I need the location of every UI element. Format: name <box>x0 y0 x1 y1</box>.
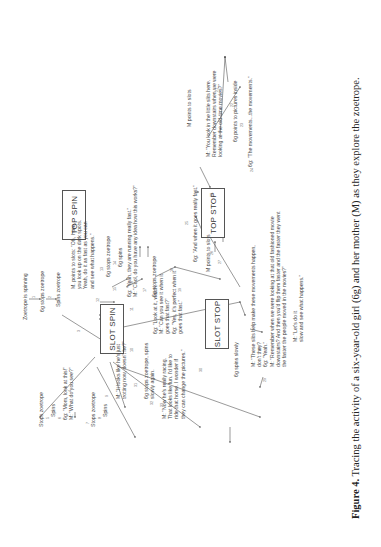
node-lets-do-it: M: "Let's do it slow and see what happen… <box>292 275 304 342</box>
arrow-number: 13 <box>100 267 104 271</box>
arrow-number: 30 <box>199 368 203 372</box>
node-points-pictures: 6g points to pictures inside <box>232 81 238 142</box>
arrow-number: 12 <box>96 298 100 302</box>
arrow-number: 24 <box>250 168 254 172</box>
arrow-number: 16 <box>130 281 134 285</box>
node-spins-14: 6g spins <box>117 248 123 267</box>
arrow-number: 2 <box>48 296 52 298</box>
node-spins-slowly: 6g spins slowly <box>233 342 239 377</box>
arrow-number: 28 <box>258 347 262 351</box>
caption-text: Tracing the activity of a six-year-old g… <box>350 77 361 479</box>
arrow-number: 26 <box>210 251 214 255</box>
node-spins-left: Spins <box>50 404 56 417</box>
node-mom-look: 6g: "Mom, look at this!" M: "What do you… <box>62 367 74 420</box>
arrow-number: 27 <box>218 260 222 264</box>
arrow-number: 20 <box>210 193 214 197</box>
node-stops-zoetrope-mid: Stops zoetrope <box>90 392 96 427</box>
arrow-number: 1 <box>32 296 36 298</box>
node-stops-zoetrope-left: Stops zoetrope <box>38 392 44 427</box>
slot-stop-box: SLOT STOP <box>205 299 229 349</box>
arrow-number: 32 <box>150 401 154 405</box>
node-spins-mid: Spins <box>102 404 108 417</box>
node-m-points-slots-1: M. points to slots: "Oh, I see, you look… <box>70 220 95 289</box>
arrow-number: 8 <box>98 417 102 419</box>
arrow-number: 33 <box>160 403 164 407</box>
arrow-number: 11 <box>130 307 134 311</box>
arrow-number: 19 <box>178 288 182 292</box>
node-look-watch: 6g: "Look at it, watch. M: "Can you see … <box>152 271 183 334</box>
arrow-number: 10 <box>130 348 134 352</box>
node-m-points-slots-top: M points to slots <box>186 90 192 127</box>
arrow-number: 3 <box>77 330 81 332</box>
node-spins-zoetrope-1: Spins zoetrope <box>55 272 61 307</box>
arrow-number: 15 <box>113 287 117 291</box>
figure-caption: Figure 4. Tracing the activity of a six-… <box>350 19 361 519</box>
arrow-number: 31 <box>134 383 138 387</box>
node-stops-spins-slowly: 6g stops zoetrope, spins slowly again. <box>143 343 155 399</box>
arrow-number: 23 <box>240 123 244 127</box>
arrow-number: 7 <box>86 422 90 424</box>
node-stops-zoetrope-13: 6g stops zoetrope <box>105 236 111 277</box>
arrow-number: 4 <box>68 390 72 392</box>
figure-canvas: SLOT SPIN TOP SPIN TOP STOP SLOT STOP Zo… <box>0 0 381 547</box>
arrow-number: 22 <box>230 103 234 107</box>
node-stops-zoetrope-1: 6g stops zoetrope <box>39 271 45 312</box>
arrow-number: 18 <box>170 268 174 272</box>
node-racing: M: "Now he's really racing. That looks l… <box>161 349 186 419</box>
node-little-slits: M: "You look in the little slits here. R… <box>205 71 224 158</box>
node-the-movements: 6g: "The movements...the movements." <box>247 76 253 167</box>
node-trotting: M: "It looks like he's just trotting now… <box>115 341 127 399</box>
node-slits-help: M: "These slits help make these movement… <box>250 211 287 367</box>
node-really-fast: 6g: "And when it goes really fast." <box>192 185 198 262</box>
arrow-number: 17 <box>143 288 147 292</box>
arrow-number: 21 <box>215 88 219 92</box>
arrow-number: 6 <box>58 417 62 419</box>
arrow-number: 29 <box>263 378 267 382</box>
arrow-number: 14 <box>113 261 117 265</box>
caption-label: Figure 4. <box>350 479 361 519</box>
arrow-number: 25 <box>185 221 189 225</box>
node-zoetrope-spinning: Zoetrope is spinning <box>22 273 28 320</box>
arrow-number: 9 <box>105 395 109 397</box>
arrow-number: 5 <box>46 417 50 419</box>
